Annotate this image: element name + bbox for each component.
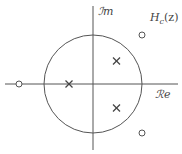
- zero-marker: [139, 32, 145, 38]
- pole-zero-diagram: ℐm ℛe Hc(z): [0, 0, 182, 154]
- title-main: H: [150, 11, 160, 24]
- imaginary-axis-label: ℐm: [98, 6, 113, 17]
- pole-marker: [113, 58, 120, 65]
- real-axis-label: ℛe: [155, 89, 171, 100]
- zero-marker: [139, 130, 145, 136]
- pole-marker: [113, 105, 120, 112]
- zero-marker: [16, 81, 22, 87]
- title-argument: (z): [164, 11, 178, 24]
- transfer-function-label: Hc(z): [150, 12, 178, 26]
